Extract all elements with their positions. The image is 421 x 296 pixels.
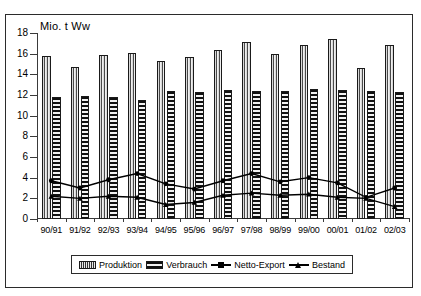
- x-tick-label: 02/03: [378, 225, 412, 235]
- marker-netto-export: [192, 187, 197, 192]
- marker-netto-export: [135, 171, 140, 176]
- marker-netto-export: [249, 171, 254, 176]
- y-axis-title: Mio. t Ww: [40, 20, 90, 32]
- legend-label-netto-export: Netto-Export: [234, 260, 285, 270]
- marker-netto-export: [278, 179, 283, 184]
- y-tick-label: 8: [2, 130, 28, 141]
- marker-netto-export: [392, 186, 397, 191]
- y-tick-label: 0: [2, 213, 28, 224]
- marker-netto-export: [221, 178, 226, 183]
- chart-figure: Mio. t Ww 024681012141618 90/9191/9292/9…: [0, 0, 421, 296]
- y-tick-label: 16: [2, 48, 28, 59]
- y-tick-label: 2: [2, 192, 28, 203]
- y-tick-label: 10: [2, 110, 28, 121]
- marker-netto-export: [163, 181, 168, 186]
- y-tick-label: 14: [2, 68, 28, 79]
- bestand-marker-icon: [289, 261, 309, 269]
- marker-netto-export: [106, 177, 111, 182]
- marker-netto-export: [306, 175, 311, 180]
- y-tick-label: 12: [2, 89, 28, 100]
- y-tick-label: 4: [2, 172, 28, 183]
- marker-netto-export: [335, 180, 340, 185]
- netto-export-marker-icon: [211, 261, 231, 269]
- legend-item-bestand: Bestand: [289, 260, 345, 270]
- lines-layer: [37, 33, 409, 219]
- legend-item-netto-export: Netto-Export: [211, 260, 285, 270]
- marker-netto-export: [49, 178, 54, 183]
- y-tick-label: 6: [2, 151, 28, 162]
- x-tick: [409, 218, 410, 222]
- chart-legend: Produktion Verbrauch Netto-Export Bestan…: [71, 255, 353, 274]
- legend-label-bestand: Bestand: [312, 260, 345, 270]
- legend-label-produktion: Produktion: [99, 260, 142, 270]
- legend-item-verbrauch: Verbrauch: [146, 260, 207, 270]
- legend-item-produktion: Produktion: [79, 260, 142, 270]
- y-tick-label: 18: [2, 27, 28, 38]
- verbrauch-swatch-icon: [146, 261, 163, 269]
- marker-netto-export: [78, 186, 83, 191]
- produktion-swatch-icon: [79, 261, 96, 269]
- legend-label-verbrauch: Verbrauch: [166, 260, 207, 270]
